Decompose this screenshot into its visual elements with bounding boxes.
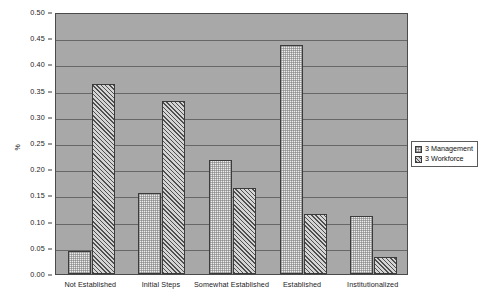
x-tick-label: Somewhat Established [194,280,269,289]
y-tick-mark [48,144,52,145]
plot-area [55,13,408,275]
legend: 3 Management3 Workforce [411,141,478,167]
y-tick-label: 0.15 [30,193,45,200]
y-tick-label: 0.35 [30,88,45,95]
legend-swatch-icon [415,156,422,163]
y-tick-label: 0.30 [30,114,45,121]
gridline [56,66,407,67]
bar [162,101,185,274]
y-tick-mark [48,65,52,66]
y-tick-label: 0.25 [30,140,45,147]
bar [350,216,373,274]
y-tick-mark [48,91,52,92]
legend-item: 3 Management [415,144,473,154]
x-tick-label: Initial Steps [142,280,180,289]
y-tick-mark [48,13,52,14]
y-axis: 0.500.450.400.350.300.250.200.150.100.05… [0,13,52,275]
y-tick-mark [48,248,52,249]
y-tick-label: 0.50 [30,9,45,16]
y-tick-label: 0.00 [30,271,45,278]
y-tick-label: 0.45 [30,36,45,43]
y-tick-label: 0.20 [30,167,45,174]
y-tick-mark [48,117,52,118]
bar [280,45,303,274]
legend-swatch-icon [415,146,422,153]
y-tick-mark [48,39,52,40]
x-tick-label: Institutionalized [347,280,398,289]
y-tick-mark [48,222,52,223]
legend-label: 3 Management [425,145,473,152]
y-tick-label: 0.10 [30,219,45,226]
y-tick-mark [48,170,52,171]
bar [233,188,256,274]
x-axis: Not EstablishedInitial StepsSomewhat Est… [55,280,408,296]
bar [68,251,91,274]
bar-chart: % 0.500.450.400.350.300.250.200.150.100.… [0,0,489,306]
bar [374,257,397,274]
legend-label: 3 Workforce [425,155,464,162]
y-tick-label: 0.40 [30,62,45,69]
gridline [56,40,407,41]
legend-item: 3 Workforce [415,154,473,164]
x-tick-label: Established [283,280,321,289]
y-tick-mark [48,275,52,276]
bar [92,84,115,274]
y-tick-label: 0.05 [30,245,45,252]
y-tick-mark [48,196,52,197]
bar [304,214,327,274]
bar [138,193,161,274]
bar [209,160,232,274]
x-tick-label: Not Established [64,280,116,289]
